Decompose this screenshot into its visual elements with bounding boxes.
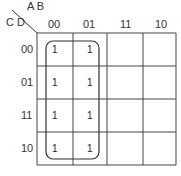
col-header: 11	[120, 18, 131, 30]
cell: 1	[52, 143, 58, 154]
col-header: 01	[83, 18, 95, 30]
cell: 1	[52, 110, 58, 121]
row-header: 00	[21, 43, 33, 55]
col-header: 10	[155, 18, 167, 30]
row-header: 10	[21, 142, 33, 154]
col-var-label: A B	[27, 0, 44, 12]
cell: 1	[87, 110, 93, 121]
row-header: 11	[21, 109, 32, 121]
cell: 1	[87, 143, 93, 154]
cell: 1	[52, 77, 58, 88]
row-header: 01	[21, 76, 33, 88]
cell: 1	[87, 44, 93, 55]
cell: 1	[87, 77, 93, 88]
row-var-label: C D	[6, 16, 25, 28]
cell: 1	[52, 44, 58, 55]
col-header: 00	[48, 18, 60, 30]
